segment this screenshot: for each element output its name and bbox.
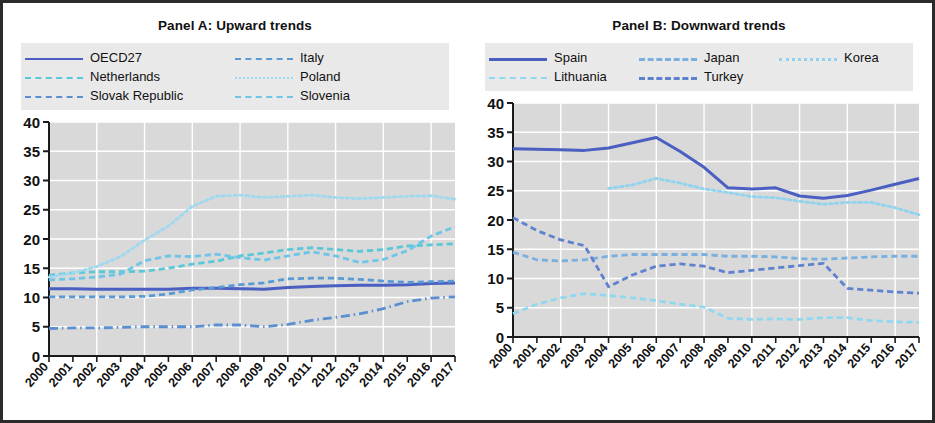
legend-row: OECD27Italy: [25, 48, 445, 67]
legend-item-netherlands[interactable]: Netherlands: [25, 67, 235, 86]
panel-a: Panel A: Upward trends OECD27ItalyNether…: [9, 9, 461, 417]
legend-line-icon: [489, 53, 547, 63]
legend-item-lithuania[interactable]: Lithuania: [489, 67, 639, 86]
svg-text:2010: 2010: [261, 360, 290, 390]
x-axis-tick-label: 2001: [510, 341, 539, 371]
legend-item-italy[interactable]: Italy: [235, 48, 385, 67]
x-axis-tick-label: 2013: [333, 360, 362, 390]
svg-text:2013: 2013: [797, 341, 826, 371]
svg-text:2000: 2000: [22, 360, 51, 390]
x-axis-tick-label: 2010: [261, 360, 290, 390]
legend-item-oecd27[interactable]: OECD27: [25, 48, 235, 67]
y-axis-tick-label: 35: [487, 124, 504, 141]
x-axis-tick-label: 2002: [534, 341, 563, 371]
legend-line-icon: [779, 53, 837, 63]
x-axis-tick-label: 2010: [725, 341, 754, 371]
y-axis-tick-label: 35: [23, 143, 40, 160]
legend-label: Netherlands: [90, 69, 160, 84]
x-axis-tick-label: 2017: [892, 341, 921, 371]
panel-b-legend: SpainJapanKoreaLithuaniaTurkey: [485, 43, 913, 91]
x-axis-tick-label: 2013: [797, 341, 826, 371]
panel-a-title: Panel A: Upward trends: [9, 17, 461, 35]
y-axis-tick-label: 15: [23, 260, 40, 277]
svg-text:2001: 2001: [46, 360, 75, 390]
legend-row: NetherlandsPoland: [25, 67, 445, 86]
svg-text:2004: 2004: [118, 360, 147, 390]
panel-b-title: Panel B: Downward trends: [473, 17, 925, 35]
legend-item-poland[interactable]: Poland: [235, 67, 385, 86]
legend-item-korea[interactable]: Korea: [779, 48, 909, 67]
legend-line-icon: [25, 91, 83, 101]
svg-text:2009: 2009: [701, 341, 730, 371]
svg-text:2009: 2009: [237, 360, 266, 390]
x-axis-tick-label: 2003: [558, 341, 587, 371]
x-axis-tick-label: 2009: [701, 341, 730, 371]
svg-text:2002: 2002: [534, 341, 563, 371]
x-axis-tick-label: 2014: [821, 341, 850, 371]
svg-text:2007: 2007: [653, 341, 682, 371]
legend-label: OECD27: [90, 50, 142, 65]
x-axis-tick-label: 2000: [486, 341, 515, 371]
legend-item-spain[interactable]: Spain: [489, 48, 639, 67]
x-axis-tick-label: 2005: [142, 360, 171, 390]
legend-row: LithuaniaTurkey: [489, 67, 909, 86]
svg-text:2006: 2006: [166, 360, 195, 390]
x-axis-tick-label: 2000: [22, 360, 51, 390]
svg-text:2014: 2014: [357, 360, 386, 390]
x-axis-tick-label: 2007: [653, 341, 682, 371]
y-axis-tick-label: 5: [496, 299, 504, 316]
legend-line-icon: [235, 72, 293, 82]
svg-text:2001: 2001: [510, 341, 539, 371]
x-axis-tick-label: 2001: [46, 360, 75, 390]
legend-item-turkey[interactable]: Turkey: [639, 67, 779, 86]
legend-line-icon: [25, 72, 83, 82]
y-axis-tick-label: 25: [487, 182, 504, 199]
x-axis-tick-label: 2006: [630, 341, 659, 371]
x-axis-tick-label: 2015: [844, 341, 873, 371]
figure-frame: Panel A: Upward trends OECD27ItalyNether…: [0, 0, 935, 423]
legend-label: Slovak Republic: [90, 88, 183, 103]
legend-label: Lithuania: [554, 69, 607, 84]
svg-text:2003: 2003: [94, 360, 123, 390]
x-axis-tick-label: 2004: [582, 341, 611, 371]
svg-text:2012: 2012: [309, 360, 338, 390]
x-axis-tick-label: 2016: [868, 341, 897, 371]
legend-label: Japan: [704, 50, 739, 65]
x-axis-tick-label: 2011: [285, 360, 314, 390]
x-axis-tick-label: 2008: [677, 341, 706, 371]
y-axis-tick-label: 40: [23, 116, 40, 131]
panel-b-chart-svg: 0510152025303540200020012002200320042005…: [473, 97, 925, 379]
y-axis-tick-label: 10: [487, 270, 504, 287]
svg-text:2015: 2015: [380, 360, 409, 390]
svg-text:2000: 2000: [486, 341, 515, 371]
svg-text:2016: 2016: [868, 341, 897, 371]
x-axis-tick-label: 2017: [428, 360, 457, 390]
y-axis-tick-label: 40: [487, 97, 504, 112]
legend-item-slovenia[interactable]: Slovenia: [235, 86, 385, 105]
svg-text:2016: 2016: [404, 360, 433, 390]
panel-b: Panel B: Downward trends SpainJapanKorea…: [473, 9, 925, 417]
x-axis-tick-label: 2011: [749, 341, 778, 371]
svg-text:2017: 2017: [892, 341, 921, 371]
svg-text:2005: 2005: [606, 341, 635, 371]
svg-text:2015: 2015: [844, 341, 873, 371]
x-axis-tick-label: 2005: [606, 341, 635, 371]
svg-text:2011: 2011: [285, 360, 314, 390]
y-axis-tick-label: 25: [23, 201, 40, 218]
svg-text:2010: 2010: [725, 341, 754, 371]
x-axis-tick-label: 2016: [404, 360, 433, 390]
x-axis-tick-label: 2008: [213, 360, 242, 390]
y-axis-tick-label: 10: [23, 289, 40, 306]
legend-label: Spain: [554, 50, 587, 65]
x-axis-tick-label: 2012: [309, 360, 338, 390]
x-axis-tick-label: 2002: [70, 360, 99, 390]
y-axis-tick-label: 15: [487, 241, 504, 258]
legend-item-japan[interactable]: Japan: [639, 48, 779, 67]
y-axis-tick-label: 20: [487, 212, 504, 229]
legend-line-icon: [25, 53, 83, 63]
svg-text:2008: 2008: [213, 360, 242, 390]
svg-text:2005: 2005: [142, 360, 171, 390]
x-axis-tick-label: 2006: [166, 360, 195, 390]
x-axis-tick-label: 2014: [357, 360, 386, 390]
legend-item-slovak-republic[interactable]: Slovak Republic: [25, 86, 235, 105]
